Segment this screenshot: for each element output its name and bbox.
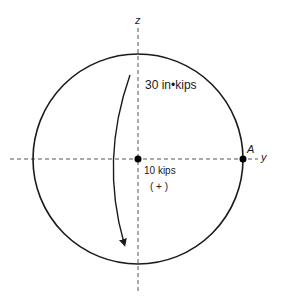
- force-label: 10 kips: [144, 165, 176, 176]
- y-axis-label: y: [261, 151, 267, 163]
- center-point: [135, 156, 142, 163]
- diagram-canvas: [0, 0, 282, 302]
- z-axis-label: z: [135, 14, 141, 26]
- moment-label: 30 in•kips: [145, 78, 197, 92]
- force-sign: ( + ): [150, 181, 168, 192]
- point-a: [240, 156, 247, 163]
- point-a-label: A: [247, 143, 254, 155]
